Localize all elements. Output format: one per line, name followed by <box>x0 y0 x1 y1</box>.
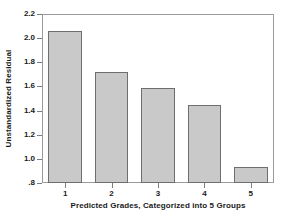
x-tick-mark <box>251 183 252 188</box>
y-tick-label: 2.2 <box>0 10 35 18</box>
x-tick-mark <box>112 183 113 188</box>
bar <box>141 88 174 183</box>
y-tick-mark <box>37 183 42 184</box>
y-tick-label: 2.0 <box>0 34 35 42</box>
x-tick-label: 2 <box>100 190 124 198</box>
bar <box>48 31 81 183</box>
y-tick-label: .8 <box>0 179 35 187</box>
x-tick-mark <box>158 183 159 188</box>
x-tick-label: 4 <box>192 190 216 198</box>
bars-layer <box>42 14 274 183</box>
x-tick-label: 3 <box>146 190 170 198</box>
y-tick-label: 1.8 <box>0 58 35 66</box>
y-tick-label: 1.6 <box>0 82 35 90</box>
y-tick-label: 1.4 <box>0 107 35 115</box>
bar <box>188 105 221 183</box>
bar <box>95 72 128 183</box>
bar <box>234 167 267 183</box>
x-axis-title: Predicted Grades, Categorized into 5 Gro… <box>42 201 274 211</box>
bar-chart: Unstandardized Residual 2.22.01.81.61.41… <box>0 0 286 215</box>
x-tick-label: 1 <box>53 190 77 198</box>
x-tick-mark <box>65 183 66 188</box>
x-tick-mark <box>204 183 205 188</box>
y-tick-label: 1.2 <box>0 131 35 139</box>
y-tick-label: 1.0 <box>0 155 35 163</box>
x-tick-label: 5 <box>239 190 263 198</box>
